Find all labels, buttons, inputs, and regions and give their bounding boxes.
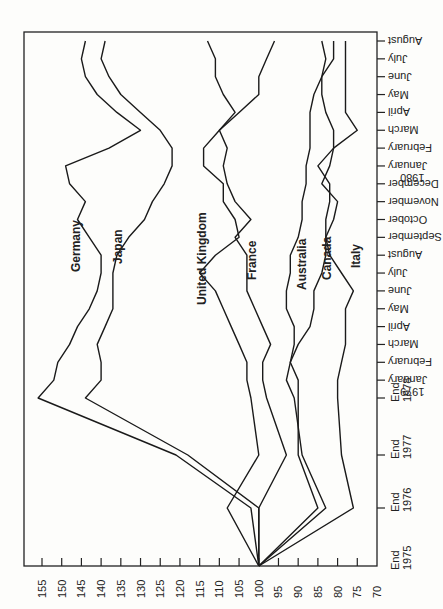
value-tick-label: 70 — [371, 586, 383, 598]
time-tick-label: May — [388, 89, 409, 101]
time-tick-label: February — [388, 356, 433, 368]
time-tick-label: End — [389, 439, 401, 459]
value-tick-label: 135 — [115, 580, 127, 598]
series-line-japan — [85, 41, 258, 566]
value-tick-label: 155 — [36, 580, 48, 598]
time-tick-label: February — [388, 142, 433, 154]
index-line-chart: 1551501451401351301251201151101051009590… — [0, 0, 443, 609]
time-tick-label: End — [389, 492, 401, 512]
label-japan: Japan — [111, 229, 125, 264]
time-tick-label: March — [388, 338, 419, 350]
label-australia: Australia — [295, 238, 309, 290]
time-tick-year: 1980 — [400, 172, 424, 184]
value-tick-label: 125 — [154, 580, 166, 598]
time-tick-label: July — [388, 267, 408, 279]
label-france: France — [245, 240, 259, 280]
time-tick-label: April — [388, 106, 410, 118]
value-tick-label: 80 — [332, 586, 344, 598]
value-tick-label: 130 — [135, 580, 147, 598]
value-axis: 1551501451401351301251201151101051009590… — [36, 558, 383, 598]
value-tick-label: 140 — [95, 580, 107, 598]
time-tick-label: July — [388, 53, 408, 65]
time-tick-label: End — [389, 550, 401, 570]
time-tick-label: June — [388, 285, 412, 297]
label-canada: Canada — [320, 236, 334, 280]
time-tick-label: May — [388, 303, 409, 315]
value-tick-label: 110 — [213, 580, 225, 598]
time-tick-label: January — [388, 374, 428, 386]
value-tick-label: 90 — [292, 586, 304, 598]
value-tick-label: 100 — [253, 580, 265, 598]
time-tick-year: 1976 — [401, 488, 413, 512]
time-tick-label: January — [388, 160, 428, 172]
time-tick-label: March — [388, 124, 419, 136]
time-tick-label: October — [388, 214, 427, 226]
value-tick-label: 120 — [174, 580, 186, 598]
time-axis: End1975End1976End1977End1978January1979F… — [377, 35, 442, 570]
time-tick-year: 1979 — [400, 386, 424, 398]
series-line-canada — [259, 41, 338, 566]
time-tick-label: August — [388, 249, 422, 261]
time-tick-label: April — [388, 321, 410, 333]
time-tick-label: August — [388, 35, 422, 47]
value-tick-label: 95 — [272, 586, 284, 598]
value-tick-label: 105 — [233, 580, 245, 598]
label-italy: Italy — [349, 244, 363, 268]
time-tick-label: September — [388, 231, 442, 243]
time-tick-year: 1977 — [401, 435, 413, 459]
series-line-italy — [259, 41, 358, 566]
value-tick-label: 150 — [56, 580, 68, 598]
time-tick-year: 1975 — [401, 546, 413, 570]
value-tick-label: 145 — [75, 580, 87, 598]
value-tick-label: 75 — [351, 586, 363, 598]
value-tick-label: 85 — [312, 586, 324, 598]
label-united-kingdom: United Kingdom — [195, 212, 209, 305]
value-tick-label: 115 — [194, 580, 206, 598]
label-germany: Germany — [69, 220, 83, 272]
time-tick-label: November — [388, 196, 439, 208]
time-tick-label: June — [388, 71, 412, 83]
